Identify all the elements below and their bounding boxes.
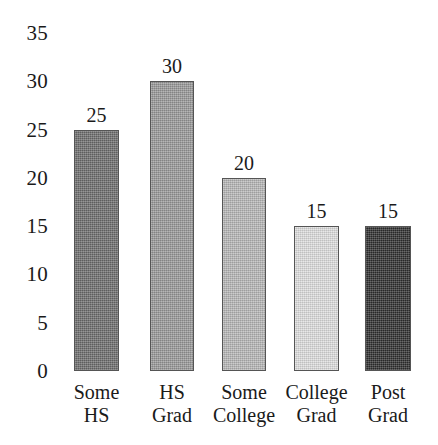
y-axis-tick-label: 30 (27, 71, 48, 92)
bar-chart: 05101520253035 25SomeHS30HSGrad20SomeCol… (0, 0, 438, 445)
x-axis-category-label-line: Some (206, 381, 282, 404)
y-axis-tick-label: 35 (27, 23, 48, 44)
plot-area: 25SomeHS30HSGrad20SomeCollege15CollegeGr… (62, 0, 438, 445)
y-axis-tick-label: 20 (27, 167, 48, 188)
bar[interactable] (74, 130, 119, 371)
y-axis-tick-label: 5 (37, 312, 48, 333)
bar-group: 25SomeHS (74, 0, 119, 445)
x-axis-category-label: SomeCollege (206, 381, 282, 427)
bar-group: 20SomeCollege (222, 0, 266, 445)
y-axis-tick-label: 10 (27, 264, 48, 285)
x-axis-category-label: SomeHS (58, 381, 135, 427)
bar-value-label: 15 (365, 201, 411, 221)
bar-value-label: 25 (74, 105, 119, 125)
bar-group: 15PostGrad (365, 0, 411, 445)
bar-value-label: 20 (222, 153, 266, 173)
bar[interactable] (222, 178, 266, 371)
bar-value-label: 30 (150, 56, 194, 76)
x-axis-category-label-line: Grad (349, 404, 427, 427)
bar[interactable] (150, 81, 194, 371)
x-axis-category-label-line: Post (349, 381, 427, 404)
y-axis-tick-label: 15 (27, 216, 48, 237)
x-axis-category-label-line: HS (58, 404, 135, 427)
bar-group: 30HSGrad (150, 0, 194, 445)
x-axis-category-label: PostGrad (349, 381, 427, 427)
x-axis-category-label-line: College (278, 381, 355, 404)
bar-value-label: 15 (294, 201, 339, 221)
x-axis-category-label-line: Some (58, 381, 135, 404)
x-axis-category-label: CollegeGrad (278, 381, 355, 427)
x-axis-category-label-line: Grad (134, 404, 210, 427)
y-axis-tick-label: 0 (37, 361, 48, 382)
x-axis-category-label-line: College (206, 404, 282, 427)
y-axis-tick-label: 25 (27, 119, 48, 140)
x-axis-category-label-line: HS (134, 381, 210, 404)
bar[interactable] (294, 226, 339, 371)
bar[interactable] (365, 226, 411, 371)
x-axis-category-label: HSGrad (134, 381, 210, 427)
y-axis: 05101520253035 (0, 0, 62, 445)
bar-group: 15CollegeGrad (294, 0, 339, 445)
x-axis-category-label-line: Grad (278, 404, 355, 427)
